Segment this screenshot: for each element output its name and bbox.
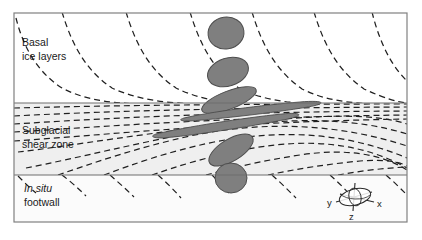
axis-label-z: z [349,211,354,222]
label-shear-zone-line1: Subglacial [22,124,70,136]
clast-marker [215,163,247,193]
label-basal-ice-line2: ice layers [22,50,66,62]
cross-section-diagram: Basal ice layers Subglacial shear zone I… [0,0,422,240]
axis-label-x: x [377,198,382,209]
label-basal-ice-line1: Basal [22,36,48,48]
axis-label-y: y [327,197,332,208]
label-shear-zone-line2: shear zone [22,138,74,150]
label-footwall-line1: In situ [24,182,52,194]
figure-canvas: Basal ice layers Subglacial shear zone I… [0,0,422,240]
label-footwall-line2: footwall [24,196,60,208]
